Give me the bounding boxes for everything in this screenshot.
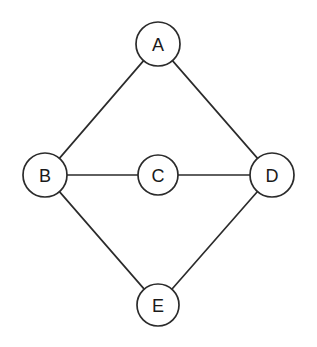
node-e-label: E — [152, 296, 164, 316]
edge-b-e — [59, 192, 144, 290]
node-c[interactable]: C — [138, 155, 178, 195]
node-layer: A B C D E — [23, 22, 294, 326]
edge-d-e — [172, 192, 258, 290]
edge-a-b — [59, 61, 143, 159]
edge-a-d — [172, 61, 257, 159]
node-e[interactable]: E — [137, 284, 179, 326]
graph-diagram-canvas: A B C D E — [0, 0, 317, 347]
node-d[interactable]: D — [250, 153, 294, 197]
node-a[interactable]: A — [136, 22, 180, 66]
node-b-label: B — [39, 166, 51, 186]
graph-svg: A B C D E — [0, 0, 317, 347]
node-b[interactable]: B — [23, 153, 67, 197]
node-a-label: A — [152, 35, 164, 55]
node-d-label: D — [266, 166, 279, 186]
node-c-label: C — [152, 166, 165, 186]
